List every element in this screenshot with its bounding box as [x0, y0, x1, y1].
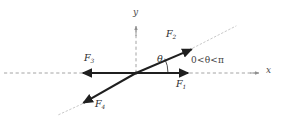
- force-vector-F2: [136, 49, 192, 73]
- force-label-F3-main: F: [84, 52, 91, 63]
- force-label-F4-main: F: [95, 98, 102, 109]
- force-label-F1-main: F: [176, 78, 183, 89]
- force-label-F2-subscript: 2: [173, 34, 177, 40]
- force-label-F2: F2: [166, 29, 176, 41]
- force-label-F3: F3: [84, 53, 94, 65]
- diagonal-extension-upper-right-line: [193, 26, 236, 48]
- force-vector-diagram: y x F1 F2 F3 F4 θ 0<θ<π: [0, 0, 286, 126]
- x-axis-label: x: [266, 66, 271, 75]
- force-label-F1: F1: [176, 79, 186, 91]
- force-label-F4: F4: [95, 99, 105, 111]
- force-label-F2-main: F: [166, 28, 173, 39]
- theta-range-annotation: 0<θ<π: [191, 56, 224, 65]
- angle-theta-label: θ: [157, 54, 163, 64]
- force-label-F4-subscript: 4: [102, 104, 106, 110]
- force-vector-F4: [84, 73, 137, 103]
- diagram-canvas: [0, 0, 286, 126]
- force-label-F1-subscript: 1: [183, 84, 187, 90]
- diagonal-extension-lower-left-line: [58, 104, 82, 115]
- y-axis-label: y: [133, 8, 138, 17]
- force-label-F3-subscript: 3: [91, 58, 95, 64]
- force-vectors: [83, 49, 192, 102]
- origin-point: [135, 72, 138, 75]
